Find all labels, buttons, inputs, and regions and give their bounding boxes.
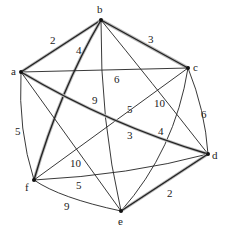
edge-weight-a-d: 3 [127, 129, 133, 141]
edge-weight-e-d: 2 [167, 187, 173, 199]
edge-weight-a-e: 10 [70, 157, 82, 169]
node-b [99, 18, 103, 22]
edge-weight-c-f: 5 [127, 103, 133, 115]
edge-weight-c-d: 6 [201, 108, 207, 120]
node-e [119, 209, 123, 213]
edge-weight-f-d: 5 [76, 179, 82, 191]
edge-weight-b-e: 9 [92, 94, 98, 106]
edge-a-c [21, 68, 188, 72]
edge-weight-a-f: 5 [15, 125, 21, 137]
edge-weight-b-c: 3 [148, 33, 154, 45]
edge-weight-f-e: 9 [64, 200, 70, 212]
edge-weight-a-c: 6 [114, 73, 120, 85]
edge-a-e [21, 72, 121, 211]
node-label-a: a [11, 65, 16, 77]
node-c [186, 66, 190, 70]
node-label-e: e [118, 215, 123, 227]
node-a [19, 70, 23, 74]
weighted-graph: 23469105436510592abcdef [0, 0, 226, 231]
node-label-f: f [25, 181, 29, 193]
node-f [32, 178, 36, 182]
edge-b-d [101, 20, 208, 154]
edge-b-c [101, 20, 188, 68]
edge-weight-a-b: 2 [50, 34, 56, 46]
edge-a-b [21, 20, 101, 72]
node-label-d: d [212, 149, 218, 161]
node-label-c: c [193, 61, 198, 73]
edge-weight-b-f: 4 [76, 44, 82, 56]
node-d [206, 152, 210, 156]
edge-weight-c-e: 4 [158, 125, 164, 137]
node-label-b: b [97, 3, 103, 15]
edge-f-d [34, 154, 208, 180]
edge-weight-b-d: 10 [154, 97, 166, 109]
edge-a-f [21, 72, 34, 180]
edge-c-f [34, 68, 188, 180]
edge-e-d [121, 154, 208, 211]
